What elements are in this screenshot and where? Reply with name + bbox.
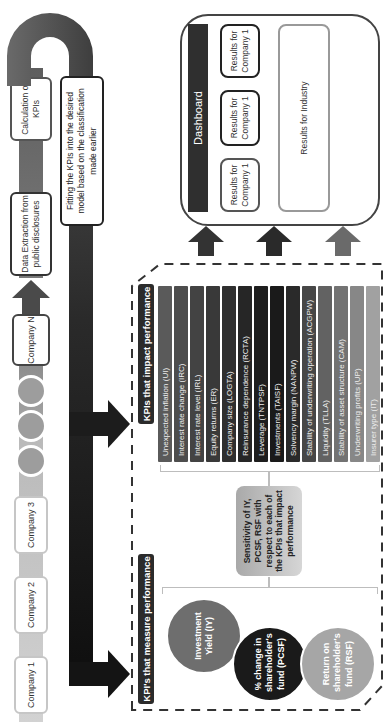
kpi-circle-iy: Investment Yield (IY) (166, 598, 242, 674)
kpi-bar: Reinsurance dependence (RCTA) (238, 286, 252, 462)
kpi-bar: Underwriting profits (UP) (350, 286, 364, 462)
kpi-bar: Investments (TAISF) (270, 286, 284, 462)
kpi-bar: Equity returns (ER) (206, 286, 220, 462)
sensitivity-box: Sensitivity of IY, PCSF, RSF with respec… (236, 486, 302, 576)
company-result-box: Results for Company 1 (220, 90, 260, 146)
arrow-right-icon (325, 226, 361, 256)
bracket-stem (268, 472, 270, 486)
impact-kpi-list: Unexpected inflation (UI) Interest rate … (158, 284, 384, 462)
kpi-bar: Solvency margin (NANPW) (286, 286, 300, 462)
bracket-stem (268, 577, 270, 587)
kpi-bar: Interest rate change (IRC) (174, 286, 188, 462)
measure-bracket (162, 587, 378, 594)
kpi-bar: Stability of underwriting operation (ACG… (302, 286, 316, 462)
impact-title: KPIs that impact performance (138, 284, 154, 424)
company-result-box: Results for Company 1 (220, 24, 260, 78)
company-result-box: Results for Company 1 (220, 158, 260, 212)
kpi-bar: Company size (LOGTA) (222, 286, 236, 462)
kpi-bar: Interest rate level (IRL) (190, 286, 204, 462)
dashboard-panel: Dashboard Results for Company 1 Results … (180, 14, 380, 226)
kpi-bar: Unexpected inflation (UI) (158, 286, 172, 462)
kpi-bar: Liquidity (TLLA) (318, 286, 332, 462)
kpi-bar: Insurer type (IT) (366, 286, 380, 462)
dashboard-title: Dashboard (188, 24, 208, 212)
measure-title: KPI's that measure performance (138, 554, 154, 704)
kpi-circle-pcsf: % change in shareholder's fund (PCSF) (232, 626, 308, 702)
impact-bracket (160, 465, 380, 472)
arrow-right-icon (188, 226, 224, 256)
kpi-circle-rsf: Return on shareholder's fund (RSF) (300, 626, 376, 702)
kpi-bar: Leverage (TNTPSF) (254, 286, 268, 462)
arrow-right-icon (256, 226, 292, 256)
kpi-bar: Stability of asset structure (CAM) (334, 286, 348, 462)
industry-result-box: Results for Industry (278, 24, 330, 212)
diagram-canvas: Company 1 Company 2 Company 3 Company N … (0, 0, 391, 726)
